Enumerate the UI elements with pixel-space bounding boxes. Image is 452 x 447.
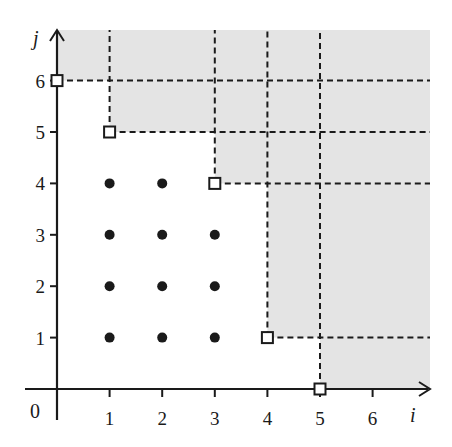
y-tick-label: 4 [36, 173, 46, 194]
y-tick-label: 3 [36, 225, 46, 246]
lattice-point [210, 333, 220, 343]
x-tick-label: 5 [315, 408, 325, 429]
origin-label: 0 [30, 400, 40, 422]
x-tick-label: 2 [157, 408, 167, 429]
y-tick-label: 6 [36, 71, 46, 92]
lattice-point [210, 281, 220, 291]
y-tick-label: 5 [36, 122, 46, 143]
lattice-point [157, 281, 167, 291]
x-tick-label: 6 [368, 408, 378, 429]
staircase-diagram: 123456123456 0 i j [0, 0, 452, 447]
x-axis-label: i [410, 404, 416, 426]
corner-square-icon [262, 332, 273, 343]
x-tick-label: 4 [263, 408, 273, 429]
corner-square-icon [52, 75, 63, 86]
y-tick-label: 1 [36, 328, 46, 349]
interior-points [105, 178, 220, 342]
x-tick-label: 1 [105, 408, 115, 429]
y-axis-label: j [30, 27, 39, 50]
corner-square-icon [209, 178, 220, 189]
lattice-point [157, 333, 167, 343]
lattice-point [210, 230, 220, 240]
lattice-point [105, 230, 115, 240]
y-tick-label: 2 [36, 276, 46, 297]
corner-square-icon [104, 127, 115, 138]
lattice-point [105, 333, 115, 343]
lattice-point [105, 281, 115, 291]
lattice-point [105, 178, 115, 188]
x-tick-label: 3 [210, 408, 220, 429]
lattice-point [157, 230, 167, 240]
lattice-point [157, 178, 167, 188]
corner-square-icon [315, 384, 326, 395]
